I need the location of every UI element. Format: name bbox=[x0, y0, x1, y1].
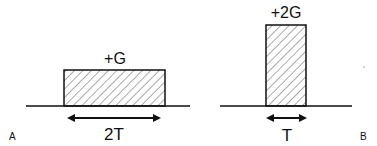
panel-b: +2G T B bbox=[220, 4, 367, 145]
stray-dot bbox=[363, 66, 365, 68]
panel-label-b: B bbox=[360, 131, 367, 142]
pulse-label-a: +G bbox=[104, 50, 126, 67]
pulse-rect-b bbox=[266, 25, 306, 106]
duration-label-a: 2T bbox=[104, 125, 124, 144]
pulse-rect-a bbox=[64, 70, 165, 106]
gradient-pulse-diagram: +G 2T A +2G T B bbox=[0, 0, 377, 146]
panel-a: +G 2T A bbox=[9, 50, 190, 144]
duration-label-b: T bbox=[282, 126, 292, 145]
pulse-label-b: +2G bbox=[271, 4, 302, 21]
panel-label-a: A bbox=[9, 131, 16, 142]
